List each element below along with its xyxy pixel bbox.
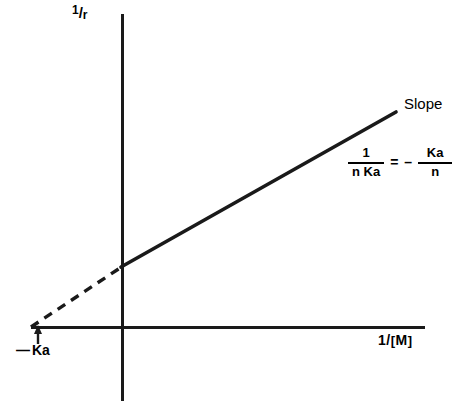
x-axis-label: 1/[M] xyxy=(378,333,413,347)
extrapolated-dashed-line xyxy=(31,266,123,327)
equation-right-fraction: Ka n xyxy=(418,146,452,180)
equation-equals-sign: = xyxy=(390,154,398,171)
x-intercept-value: Ka xyxy=(32,342,50,358)
y-axis-label: 1/r xyxy=(72,4,88,21)
equation-annotation: 1 n Ka = – Ka n xyxy=(348,146,452,180)
equation-right-denominator: n xyxy=(427,164,443,180)
y-axis-label-denominator: r xyxy=(83,8,88,22)
x-intercept-minus-sign: — xyxy=(16,342,30,358)
y-axis-label-numerator: 1 xyxy=(72,3,79,17)
equation-right-numerator: Ka xyxy=(423,146,448,162)
x-axis-label-bracket-close: ] xyxy=(408,333,413,348)
x-intercept-label: —Ka xyxy=(16,343,50,357)
slope-line xyxy=(121,112,396,267)
equation-left-denominator: n Ka xyxy=(348,164,384,180)
equation-left-numerator: 1 xyxy=(358,146,373,162)
double-reciprocal-plot-figure: 1/r 1/[M] Slope —Ka 1 n Ka = – Ka n xyxy=(0,0,466,410)
slope-annotation-label: Slope xyxy=(404,96,442,111)
x-axis-label-prefix: 1/ xyxy=(378,332,391,348)
plot-canvas xyxy=(0,0,466,410)
equation-negative-sign: – xyxy=(404,154,412,171)
x-axis-label-variable: M xyxy=(396,332,408,348)
equation-left-fraction: 1 n Ka xyxy=(348,146,384,180)
